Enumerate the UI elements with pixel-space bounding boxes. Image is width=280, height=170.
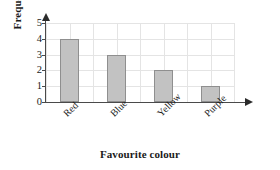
category-label-yellow: Yellow <box>155 91 183 119</box>
category-label-red: Red <box>61 100 80 119</box>
category-label-purple: Purple <box>202 93 228 119</box>
x-axis-category-labels: RedBlueYellowPurple <box>0 0 280 170</box>
x-axis-title: Favourite colour <box>0 148 280 160</box>
category-label-blue: Blue <box>108 98 129 119</box>
bar-chart-figure: Frequency 012345 RedBlueYellowPurple Fav… <box>0 0 280 170</box>
